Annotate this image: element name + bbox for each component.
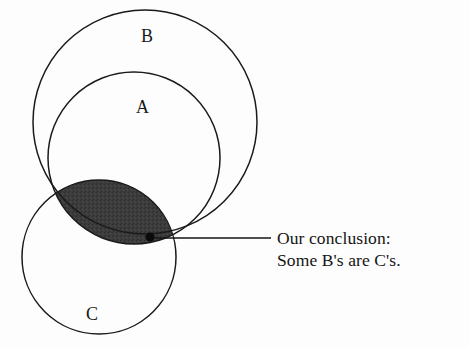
conclusion-line-1: Our conclusion:	[277, 227, 463, 249]
shaded-region-a-intersect-c	[48, 72, 220, 244]
callout-anchor-dot	[146, 233, 155, 242]
set-label-c: C	[86, 305, 98, 323]
conclusion-line-2: Some B's are C's.	[277, 249, 463, 271]
conclusion-callout: Our conclusion: Some B's are C's.	[277, 227, 463, 271]
set-label-a: A	[136, 98, 149, 116]
diagram-canvas: B A C Our conclusion: Some B's are C's.	[0, 0, 469, 347]
set-label-b: B	[141, 27, 153, 45]
venn-diagram-svg	[0, 0, 469, 347]
